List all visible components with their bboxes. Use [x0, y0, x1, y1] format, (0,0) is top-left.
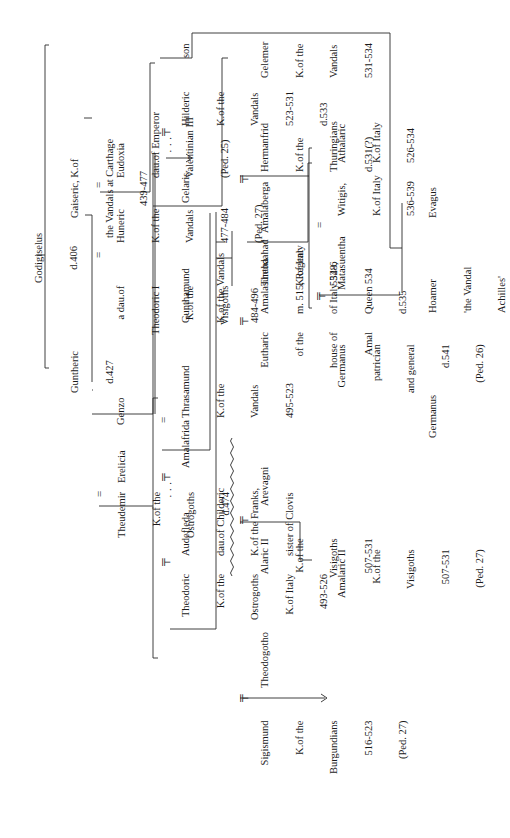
- person-sigismund: Sigismund K.of the Burgundians 516-523 (…: [236, 721, 432, 774]
- person-amalaric-ii: Amalaric II K.of the Visigoths 507-531 (…: [313, 549, 509, 598]
- person-genzo: Genzo: [92, 398, 150, 425]
- marriage-symbol: =: [94, 491, 105, 497]
- marriage-symbol: =: [158, 417, 169, 423]
- person-matasuentha: Matasuentha: [313, 236, 371, 290]
- ellipsis: · · ·: [165, 482, 176, 499]
- marriage-symbol: =: [93, 252, 104, 258]
- marriage-symbol: ╤: [236, 516, 247, 524]
- person-hoamer: Hoamer 'the Vandal Achilles': [404, 267, 510, 313]
- marriage-symbol: =: [93, 182, 104, 188]
- marriage-symbol: ╤: [158, 558, 169, 566]
- person-arevagni: Arevagni: [236, 467, 294, 506]
- person-gelaris: Gelaris: [157, 173, 215, 203]
- person-theodogotho: Theodogotho: [236, 632, 294, 688]
- person-amalafrida: Amalafrida: [157, 420, 215, 468]
- person-evagus: Evagus: [404, 187, 462, 218]
- person-thrasamund: Thrasamund K.of the Vandals 495-523: [157, 366, 318, 419]
- marriage-symbol: ╤: [236, 694, 247, 702]
- person-germanus-patrician: Germanus patrician and general d.541 (Pe…: [313, 344, 509, 393]
- marriage-symbol: =: [314, 222, 325, 228]
- person-son: son: [157, 43, 215, 58]
- marriage-symbol: ╤: [158, 128, 169, 136]
- marriage-symbol: ╤: [158, 473, 169, 481]
- person-guntheric: Guntheric d.427: [46, 351, 138, 393]
- ellipsis: · · ·: [165, 137, 176, 154]
- person-athalaric: Athalaric K.of Italy 526-534: [313, 122, 440, 163]
- person-amalaberga: Amalaberga: [236, 182, 294, 233]
- person-amalfrid: [313, 233, 336, 238]
- marriage-symbol: ╤: [313, 292, 324, 300]
- person-godigiselus: Godigiselus d.406: [10, 233, 102, 283]
- marriage-symbol: ╤: [236, 175, 247, 183]
- marriage-symbol: ╤: [236, 317, 247, 325]
- person-germanus-son: Germanus: [404, 395, 462, 438]
- person-gelemer: Gelemer K.of the Vandals 531-534: [236, 42, 397, 78]
- person-erelicia: Erelicia: [93, 450, 151, 483]
- person-theodahad-node: [236, 298, 259, 303]
